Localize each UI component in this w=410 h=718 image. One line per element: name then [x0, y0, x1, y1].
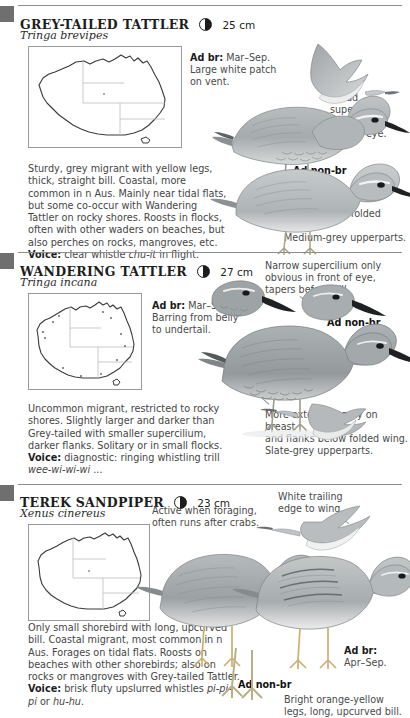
callout-flanks: Grey on flanks concealed by folded wings…: [284, 196, 410, 244]
leader-line-supercilium: [299, 296, 314, 307]
callout-supercilium: Broad supercilium from bill to behind ey…: [330, 92, 408, 140]
leader-line-flanks: [271, 178, 287, 192]
callout-flanks-line1: Grey on flanks: [284, 196, 353, 207]
callout-behaviour-line2: often runs after crabs.: [152, 517, 259, 528]
description-text: Sturdy, grey migrant with yellow legs, t…: [28, 163, 228, 261]
callout-legs-line2: legs, long, upcurved bill.: [284, 706, 402, 717]
plumage-label-ad-br: Ad br: Apr–Sep.: [344, 645, 408, 669]
plumage-label-ad-br-line3: to undertail.: [152, 324, 211, 335]
half-moon-icon: [199, 18, 212, 31]
voice-text: clear whistle: [61, 249, 128, 260]
callout-breast-line1: More extensive grey on breast: [265, 409, 378, 432]
leader-line-supercilium: [316, 121, 330, 122]
callout-supercilium-line4: behind eye.: [330, 128, 387, 139]
callout-behaviour: Active when foraging, often runs after c…: [152, 505, 272, 529]
leader-line-wing: [335, 514, 349, 524]
voice-text: diagnostic: ringing whistling trill: [61, 452, 220, 463]
scientific-name: Xenus cinereus: [20, 507, 105, 520]
callout-supercilium-line2: supercilium: [330, 104, 386, 115]
callout-supercilium-line3: tapers before bill.: [265, 284, 350, 295]
size-text: 27 cm: [220, 266, 253, 278]
scientific-name: Tringa brevipes: [20, 29, 108, 42]
voice-tail: in flight.: [156, 249, 199, 260]
callout-supercilium-line1: Broad: [330, 92, 358, 103]
section-tab-marker: [0, 485, 14, 501]
plumage-label-ad-non-br: Ad non-br: [293, 165, 346, 176]
voice-italic: chu-it: [129, 249, 157, 260]
plumage-label-ad-non-br: Ad non-br: [238, 679, 291, 690]
scientific-name: Tringa incana: [20, 276, 97, 289]
distribution-map-terek-sandpiper: [28, 524, 150, 621]
distribution-map-wandering-tattler: [28, 293, 142, 390]
callout-breast-line2: and flanks below folded wing.: [265, 433, 408, 444]
callout-supercilium-line1: Narrow supercilium only: [265, 260, 381, 271]
voice-italic2: hu-hu: [53, 696, 81, 707]
description-body: Only small shorebird with long, upcurved…: [28, 622, 240, 682]
plumage-label-ad-br-line2: Large white patch: [190, 64, 276, 75]
plumage-label-ad-br-season: Mar–Sep.: [223, 52, 270, 63]
australia-map-outline: [29, 525, 147, 618]
plumage-label-ad-br-season: Mar–Sep.: [185, 300, 232, 311]
callout-breast-line3: Slate-grey upperparts.: [265, 445, 373, 456]
half-moon-icon: [197, 265, 210, 278]
voice-italic: wee-wi-wi-wi: [28, 464, 90, 475]
section-tab-marker: [0, 6, 14, 22]
voice-label: Voice:: [28, 249, 61, 260]
section-divider: [18, 484, 402, 485]
size-group: 25 cm: [199, 15, 255, 34]
description-text: Only small shorebird with long, upcurved…: [28, 622, 240, 708]
plumage-label-ad-br-line2: Barring from belly: [152, 312, 238, 323]
callout-breast: More extensive grey on breast and flanks…: [265, 409, 410, 457]
plumage-label-ad-br: Ad br: Mar–Sep. Large white patch on ven…: [190, 52, 300, 88]
callout-legs: Bright orange-yellow legs, long, upcurve…: [284, 694, 410, 718]
australia-map-outline: [29, 294, 139, 387]
description-text: Uncommon migrant, restricted to rocky sh…: [28, 403, 233, 477]
section-divider: [18, 5, 402, 6]
callout-supercilium: Narrow supercilium only obvious in front…: [265, 260, 410, 296]
description-body: Sturdy, grey migrant with yellow legs, t…: [28, 163, 226, 248]
section-tab-marker: [0, 253, 14, 269]
plumage-label-ad-br-line3: on vent.: [190, 76, 229, 87]
callout-flanks-line3: Medium-grey upperparts.: [284, 232, 406, 243]
plumage-label-ad-br: Ad br: Mar–Sep. Barring from belly to un…: [152, 300, 260, 336]
callout-supercilium-line3: from bill to: [330, 116, 382, 127]
voice-label: Voice:: [28, 452, 61, 463]
plumage-label-ad-br-bold: Ad br:: [152, 300, 185, 311]
australia-map-outline: [29, 47, 179, 145]
section-divider: [18, 252, 402, 253]
field-guide-page: GREY-TAILED TATTLER 25 cm Tringa brevipe…: [0, 0, 410, 718]
distribution-map-grey-tailed-tattler: [28, 46, 182, 148]
plumage-label-ad-br-bold: Ad br:: [344, 645, 377, 656]
voice-label: Voice:: [28, 683, 61, 694]
voice-text: brisk fluty upslurred whistles: [61, 683, 207, 694]
plumage-label-ad-br-bold: Ad br:: [190, 52, 223, 63]
callout-flanks-line2: concealed by folded wings.: [284, 208, 381, 231]
callout-wing: White trailing edge to wing.: [278, 491, 370, 515]
description-body: Uncommon migrant, restricted to rocky sh…: [28, 403, 222, 451]
voice-tail: ...: [90, 464, 102, 475]
leader-line-breast: [255, 392, 269, 405]
callout-wing-line2: edge to wing.: [278, 503, 343, 514]
size-group: 27 cm: [197, 262, 253, 281]
voice-tail: .: [81, 696, 84, 707]
callout-supercilium-line2: obvious in front of eye,: [265, 272, 376, 283]
plumage-label-ad-br-line2: Apr–Sep.: [344, 657, 387, 668]
plumage-label-ad-non-br: Ad non-br: [327, 317, 380, 328]
voice-tail2: or: [37, 696, 53, 707]
callout-wing-line1: White trailing: [278, 491, 343, 502]
callout-legs-line1: Bright orange-yellow: [284, 694, 384, 705]
size-text: 25 cm: [222, 19, 255, 31]
callout-behaviour-line1: Active when foraging,: [152, 505, 257, 516]
